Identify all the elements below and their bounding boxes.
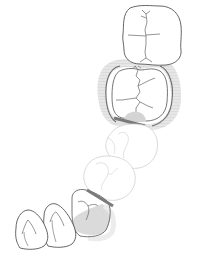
tooth-lateral-incisor [44, 204, 76, 248]
tooth-molar-distal [123, 6, 182, 66]
dental-diagram [0, 0, 202, 258]
dental-diagram-svg [0, 0, 202, 258]
tooth-central-incisor [16, 210, 48, 249]
